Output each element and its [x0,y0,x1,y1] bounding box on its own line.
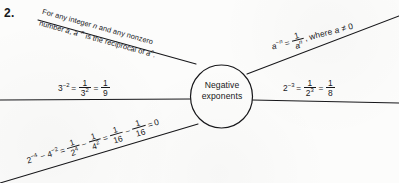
hub-label-line1: Negative [191,80,253,91]
branch-mid-right: 2−3=123=18 [283,79,336,98]
branch-line-mid-right [252,100,399,103]
hub-label-line2: exponents [191,91,253,102]
example-2-negative-3: 2−3=123=18 [283,79,336,98]
branch-mid-left: 3−2=132=19 [58,79,111,98]
branch-line-mid-left [0,99,191,100]
item-number: 2. [4,6,15,20]
concept-web-diagram: 2. Negative exponents For any integer n … [0,0,399,183]
hub-label: Negative exponents [191,80,253,102]
example-3-negative-2: 3−2=132=19 [58,79,111,98]
